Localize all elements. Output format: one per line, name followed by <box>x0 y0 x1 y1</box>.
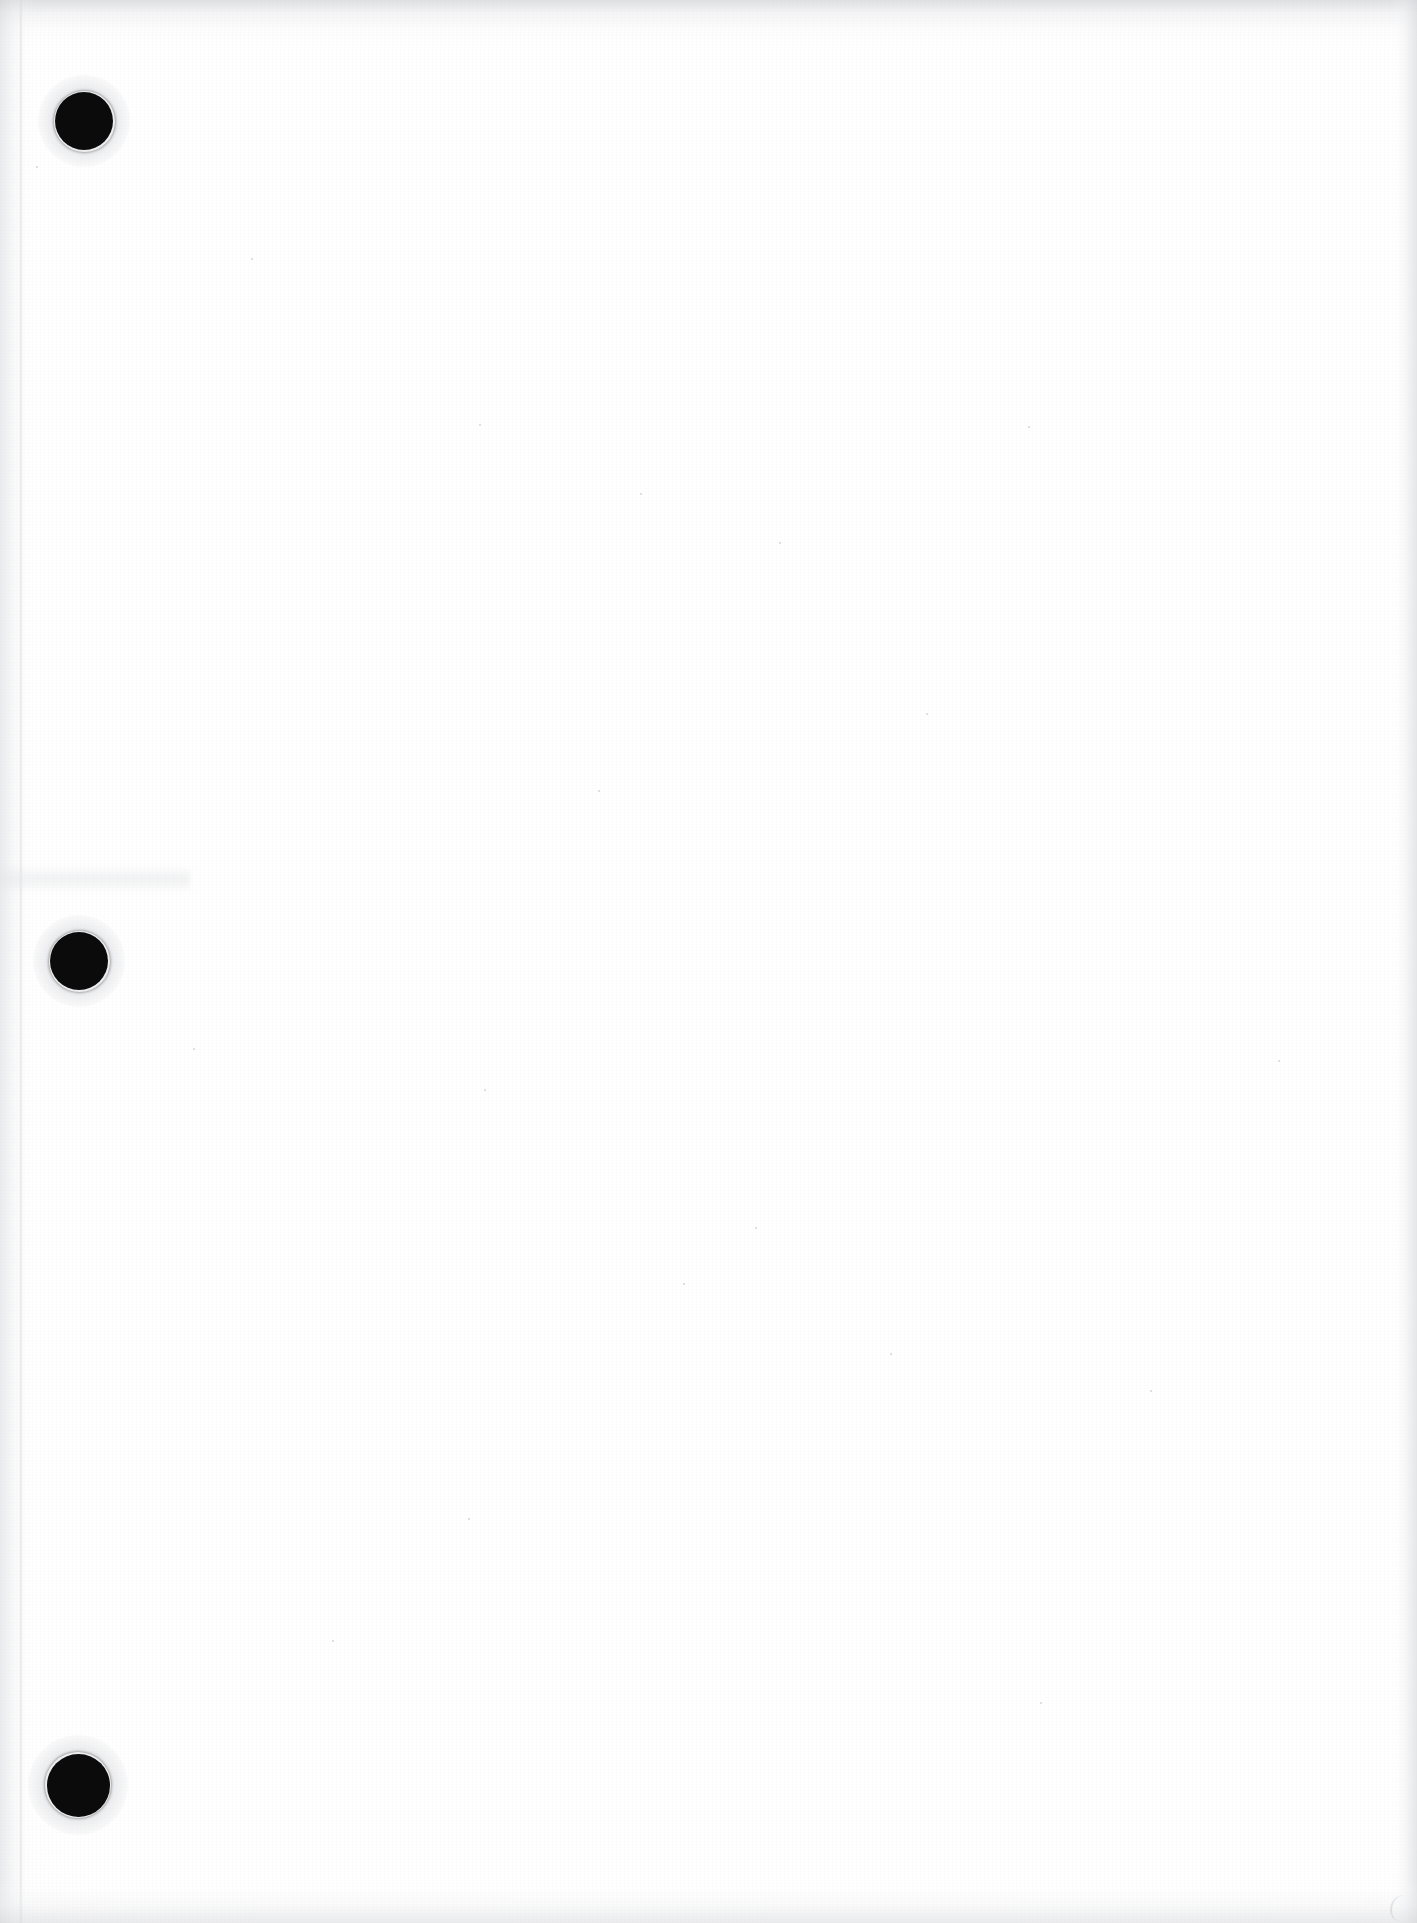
binder-hole-2 <box>50 932 108 990</box>
paper-sheet <box>0 0 1417 1923</box>
binder-hole-3 <box>47 1754 110 1817</box>
binder-hole-1 <box>55 92 113 150</box>
scanned-page <box>0 0 1417 1923</box>
